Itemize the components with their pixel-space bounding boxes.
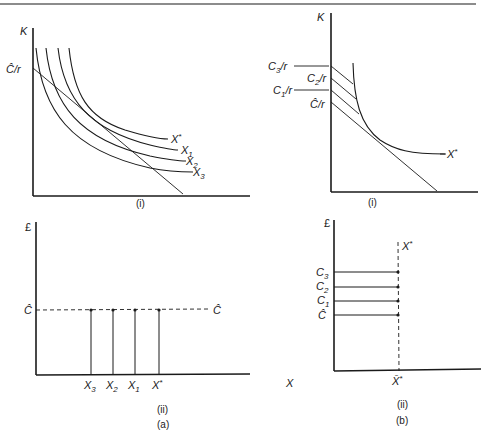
x-axis (36, 374, 250, 375)
curve-label-x3: X3 (192, 166, 205, 181)
isocost-c-hat (331, 102, 437, 191)
output-label-x-star: X* (151, 378, 163, 391)
panel-caption: (ii) (397, 399, 408, 410)
group-label: (b) (396, 415, 408, 426)
intercept-label-c3: C3/r (268, 60, 288, 75)
y-axis-label: £ (25, 221, 31, 233)
isoquant-x2 (46, 48, 186, 161)
isoquant-x-star (353, 63, 445, 154)
x-axis (334, 369, 481, 371)
isocost-c2 (331, 78, 356, 99)
y-axis-label: K (317, 11, 325, 23)
y-axis-label: K (20, 25, 28, 37)
cost-level-label-right: Ĉ (213, 304, 221, 316)
cost-level-label-left: Ĉ (24, 304, 32, 316)
point-x-star (157, 308, 160, 311)
panel-caption: (i) (136, 198, 145, 209)
cost-label-c3: C3 (316, 266, 329, 281)
economics-diagram: K Ĉ/r X* X1 X2 X3 (i) K C3/r C2/r C1/r Ĉ… (0, 0, 493, 446)
y-axis-label: £ (324, 217, 330, 229)
cost-level-dashed (36, 309, 210, 310)
isoquant-x-star (69, 48, 168, 139)
intercept-label-c1: C1/r (273, 84, 293, 99)
fixed-output-label-axis: X̄* (391, 374, 403, 387)
point-x3 (89, 308, 92, 311)
point-x1 (133, 308, 136, 311)
intercept-label: Ĉ/r (6, 63, 22, 75)
point-x2 (111, 308, 114, 311)
panel-caption: (ii) (157, 404, 168, 415)
panel-b-ii: £ X* C3 C2 C1 Ĉ X̄* (ii) (b) (316, 217, 481, 426)
cost-label-c-hat: Ĉ (318, 309, 326, 321)
panel-caption: (i) (368, 197, 377, 208)
point-c1 (396, 299, 399, 302)
panel-b-i: K C3/r C2/r C1/r Ĉ/r X* (i) (268, 11, 478, 208)
panel-a-i: K Ĉ/r X* X1 X2 X3 (i) (6, 25, 250, 209)
x-axis-label: X (285, 377, 294, 389)
cost-label-c2: C2 (316, 280, 329, 295)
isocost-c1 (331, 90, 359, 114)
output-label-x1: X1 (127, 379, 140, 394)
isoquant-x3 (36, 48, 193, 172)
group-label: (a) (157, 419, 169, 430)
output-label-x3: X3 (83, 379, 96, 394)
panel-a-ii: £ Ĉ Ĉ X3 X2 X1 X* X (ii) (a) (24, 221, 294, 430)
curve-label-x-star: X* (446, 147, 458, 160)
fixed-output-label-top: X* (401, 239, 413, 252)
point-c2 (396, 285, 399, 288)
intercept-label-c2: C2/r (307, 72, 327, 87)
point-c3 (396, 270, 399, 273)
point-c-hat (396, 313, 399, 316)
intercept-label-c-hat: Ĉ/r (310, 98, 326, 110)
cost-label-c1: C1 (317, 294, 329, 309)
output-label-x2: X2 (105, 379, 118, 394)
fixed-output-dashed (398, 242, 399, 371)
